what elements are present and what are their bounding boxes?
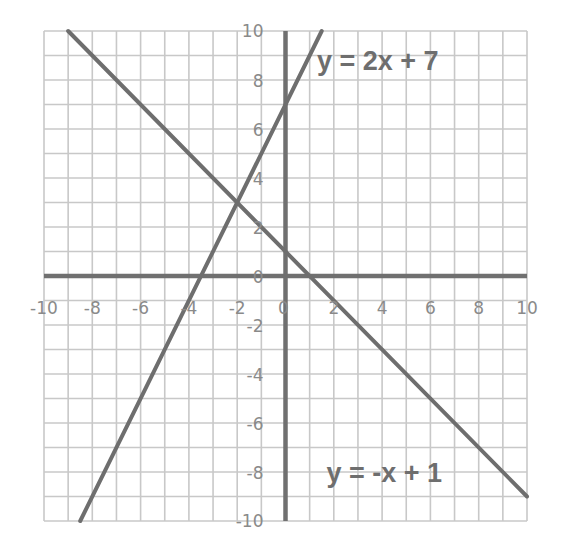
equation-label-line1: y = 2x + 7 [317,46,439,76]
function-line-2 [68,31,527,497]
origin-x-label: 0 [278,298,289,318]
y-tick-label: 4 [253,169,264,189]
x-tick-label: -4 [180,298,197,318]
coordinate-plane-chart: -10-8-6-4-2246810-10-8-6-4-202468100 y =… [0,0,565,560]
equation-label-line2: y = -x + 1 [327,458,443,488]
x-tick-label: -2 [229,298,246,318]
x-tick-label: 2 [328,298,339,318]
y-tick-label: 6 [253,120,264,140]
x-tick-label: 6 [425,298,436,318]
y-tick-label: -4 [247,365,264,385]
x-tick-label: 8 [473,298,484,318]
y-tick-label: 0 [253,267,264,287]
y-tick-label: 10 [242,21,264,41]
equation-labels: y = 2x + 7 y = -x + 1 [317,46,442,488]
plot-svg: -10-8-6-4-2246810-10-8-6-4-202468100 y =… [0,0,565,560]
y-tick-label: -2 [247,316,264,336]
y-tick-label: -6 [247,414,264,434]
x-tick-label: -10 [30,298,58,318]
y-tick-label: -8 [247,463,264,483]
y-tick-label: 8 [253,71,264,91]
y-tick-label: 2 [253,218,264,238]
x-tick-label: -6 [132,298,149,318]
x-tick-label: 4 [377,298,388,318]
y-tick-label: -10 [236,511,264,531]
x-tick-label: 10 [516,298,538,318]
x-tick-label: -8 [84,298,101,318]
